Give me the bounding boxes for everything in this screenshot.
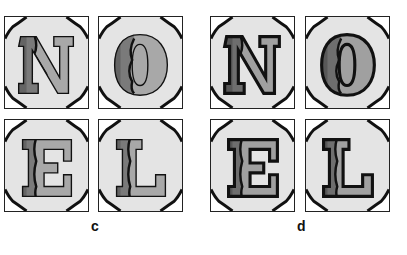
letter-n-graphic xyxy=(5,17,88,108)
tile-c-o xyxy=(98,16,183,109)
panel-label-c: c xyxy=(91,218,99,234)
letter-o-graphic xyxy=(306,17,389,108)
letter-o-graphic xyxy=(99,17,182,108)
letter-e-graphic xyxy=(211,120,294,211)
tile-d-e xyxy=(210,119,295,212)
letter-l-graphic xyxy=(306,120,389,211)
tile-d-n xyxy=(210,16,295,109)
tile-d-l xyxy=(305,119,390,212)
letter-n-graphic xyxy=(211,17,294,108)
letter-e-graphic xyxy=(5,120,88,211)
letter-l-graphic xyxy=(99,120,182,211)
tile-d-o xyxy=(305,16,390,109)
panel-label-d: d xyxy=(297,218,306,234)
tile-c-e xyxy=(4,119,89,212)
tile-c-l xyxy=(98,119,183,212)
tile-c-n xyxy=(4,16,89,109)
